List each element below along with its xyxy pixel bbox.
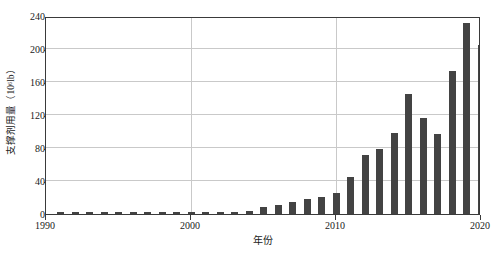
bar [275, 205, 282, 214]
bar [57, 212, 64, 214]
x-tick-label: 1990 [23, 220, 67, 231]
x-axis-title: 年份 [45, 232, 480, 247]
y-axis-ticks: 04080120160200240 [0, 17, 45, 215]
gridline-vertical [336, 18, 337, 214]
gridline-horizontal [46, 147, 479, 148]
gridline-horizontal [46, 48, 479, 49]
bar [478, 45, 481, 214]
y-tick-label: 40 [11, 177, 45, 187]
x-tick-label: 2000 [168, 220, 212, 231]
bar [347, 177, 354, 214]
y-tick-label: 240 [11, 12, 45, 22]
y-tick-label: 200 [11, 45, 45, 55]
bar [463, 23, 470, 214]
bar [333, 193, 340, 214]
bar [217, 212, 224, 214]
bar [173, 212, 180, 214]
bar [246, 211, 253, 214]
bar [101, 212, 108, 214]
bar [188, 212, 195, 214]
x-tick-label: 2020 [458, 220, 495, 231]
gridline-vertical [191, 18, 192, 214]
bar [289, 202, 296, 214]
bar [391, 133, 398, 214]
bar [318, 197, 325, 214]
y-tick-label: 80 [11, 144, 45, 154]
bar [376, 149, 383, 214]
gridline-horizontal [46, 180, 479, 181]
bar [86, 212, 93, 214]
y-tick-label: 120 [11, 111, 45, 121]
x-tick-mark [45, 215, 46, 220]
bar [202, 212, 209, 214]
x-tick-mark [190, 215, 191, 220]
chart-figure: 支撑剂用量（10⁶lb） 04080120160200240 199020002… [0, 0, 495, 258]
bar [115, 212, 122, 214]
bar [405, 94, 412, 214]
gridline-horizontal [46, 81, 479, 82]
x-tick-label: 2010 [313, 220, 357, 231]
y-tick-label: 0 [11, 210, 45, 220]
bar [434, 134, 441, 214]
x-tick-mark [480, 215, 481, 220]
bar [72, 212, 79, 214]
bar [304, 199, 311, 214]
bar [420, 118, 427, 214]
gridline-horizontal [46, 114, 479, 115]
bar [159, 212, 166, 214]
bar [260, 207, 267, 214]
x-tick-mark [335, 215, 336, 220]
bar [231, 212, 238, 214]
bar [144, 212, 151, 214]
bar [449, 71, 456, 214]
bar [130, 212, 137, 214]
plot-area [45, 17, 480, 215]
bar [362, 155, 369, 214]
y-tick-label: 160 [11, 78, 45, 88]
